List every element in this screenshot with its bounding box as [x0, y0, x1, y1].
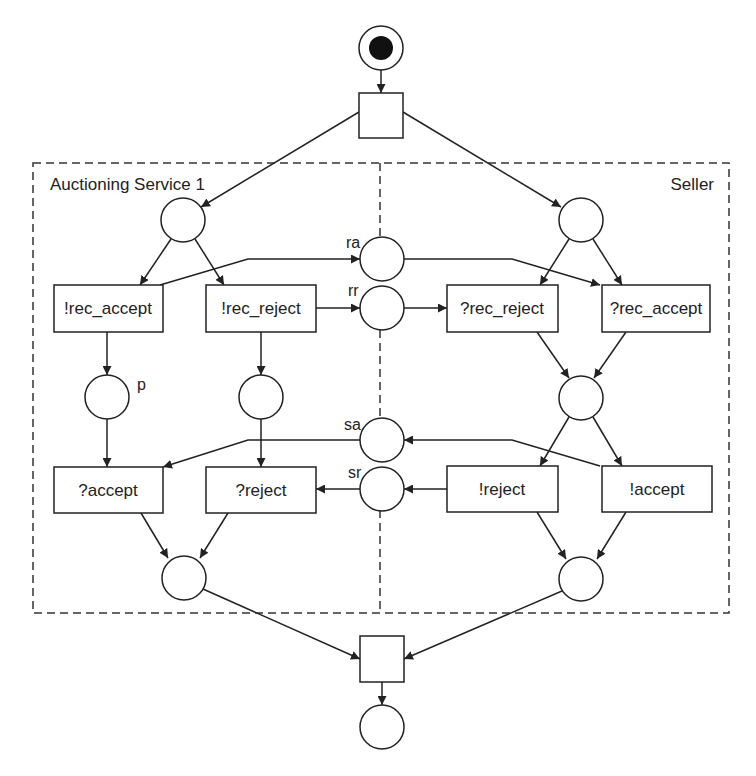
place-seller-start: [559, 198, 603, 242]
svg-text:!rec_reject: !rec_reject: [221, 299, 301, 318]
arcs: [107, 70, 626, 705]
place-sa: [360, 418, 404, 462]
place-auction-end: [162, 556, 206, 600]
place-label-sa: sa: [344, 416, 361, 433]
end-place: [360, 705, 404, 749]
petri-net-diagram: Auctioning Service 1 Seller: [0, 0, 756, 776]
place-auction-rejected: [239, 375, 283, 419]
start-transition: [359, 93, 403, 138]
transition-accept-send: !accept: [602, 466, 712, 512]
place-label-sr: sr: [348, 464, 362, 481]
svg-text:?accept: ?accept: [78, 481, 138, 500]
transition-rec-reject-recv: ?rec_reject: [447, 285, 558, 332]
place-rr: [360, 286, 404, 330]
svg-text:?rec_accept: ?rec_accept: [610, 299, 703, 318]
svg-text:!accept: !accept: [630, 480, 685, 499]
transition-reject-send: !reject: [447, 466, 558, 512]
place-sr: [360, 467, 404, 511]
svg-text:!rec_accept: !rec_accept: [64, 299, 152, 318]
token-icon: [369, 36, 393, 60]
place-label-ra: ra: [346, 234, 360, 251]
place-label-rr: rr: [348, 282, 359, 299]
transition-rec-accept-send: !rec_accept: [54, 285, 163, 332]
transition-reject-recv: ?reject: [206, 467, 316, 513]
region-label-seller: Seller: [671, 175, 715, 194]
place-seller-end: [559, 557, 603, 601]
svg-text:?reject: ?reject: [235, 481, 286, 500]
place-auction-start: [161, 198, 205, 242]
start-place: [359, 26, 403, 70]
place-seller-mid: [559, 376, 603, 420]
place-p: [85, 375, 129, 419]
transition-accept-recv: ?accept: [54, 467, 163, 513]
svg-text:?rec_reject: ?rec_reject: [460, 299, 544, 318]
transition-rec-reject-send: !rec_reject: [206, 285, 316, 332]
transition-rec-accept-recv: ?rec_accept: [602, 285, 710, 332]
svg-text:!reject: !reject: [479, 480, 526, 499]
end-transition: [360, 636, 404, 682]
place-ra: [360, 237, 404, 281]
region-label-auctioning-service: Auctioning Service 1: [50, 175, 205, 194]
place-label-p: p: [137, 376, 146, 393]
